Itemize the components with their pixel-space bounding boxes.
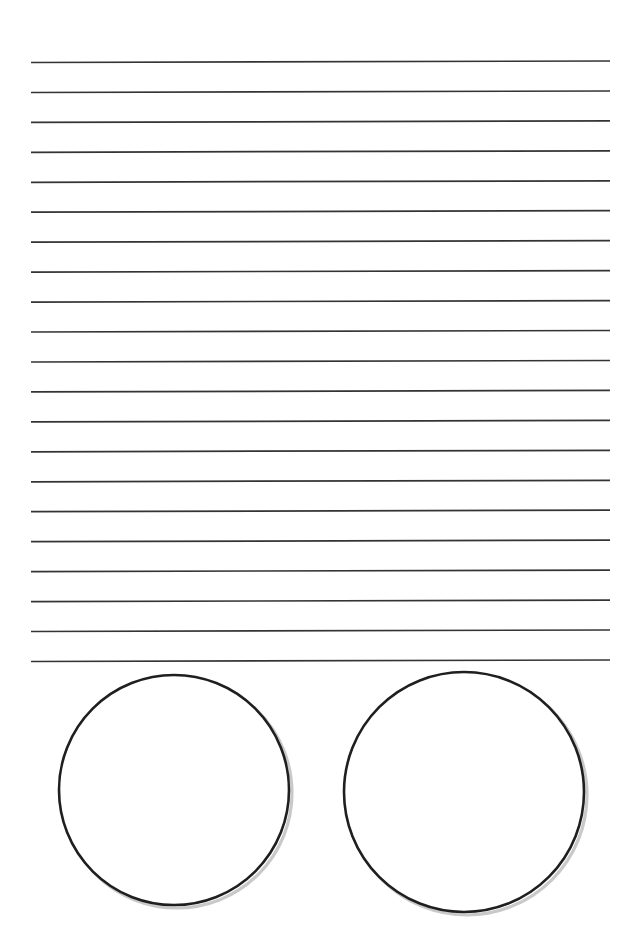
worksheet-page <box>0 0 637 930</box>
left-circle[interactable] <box>59 675 289 905</box>
right-circle[interactable] <box>344 672 584 912</box>
worksheet-canvas <box>0 0 637 930</box>
